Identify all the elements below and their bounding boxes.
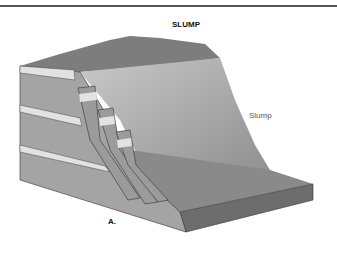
figure-title: SLUMP (172, 20, 200, 29)
slump-block-diagram (0, 0, 337, 256)
slump-callout-label: Slump (249, 111, 272, 120)
panel-label: A. (108, 217, 116, 226)
